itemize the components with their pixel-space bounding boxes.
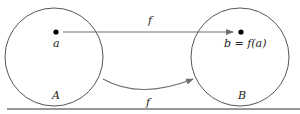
label-b-equals-f-a: b = f(a) — [224, 37, 266, 50]
label-set-B: B — [237, 89, 246, 102]
function-mapping-diagram: f f a b = f(a) A B — [0, 0, 300, 114]
label-set-A: A — [51, 89, 60, 102]
label-a: a — [53, 37, 60, 50]
label-f-bottom: f — [145, 96, 152, 109]
curved-arrow-f — [103, 79, 193, 90]
label-f-top: f — [147, 14, 154, 27]
point-b-dot — [238, 29, 243, 34]
point-a-dot — [53, 29, 58, 34]
